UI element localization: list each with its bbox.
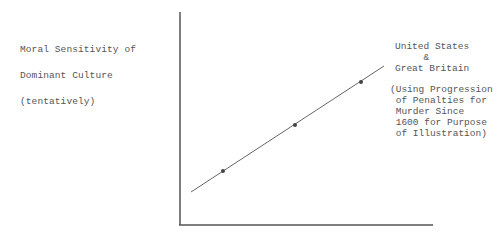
trend-line (191, 66, 384, 192)
series-note: (Using Progression of Penalties for Murd… (390, 84, 493, 139)
data-point (221, 169, 225, 173)
data-point (293, 123, 297, 127)
series-label: United States & Great Britain (395, 41, 469, 74)
data-point (359, 80, 363, 84)
